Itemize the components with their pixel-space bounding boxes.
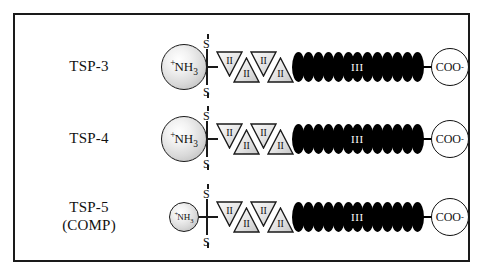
- type-ii-label: II: [255, 206, 273, 216]
- protein-name-line2: (COMP): [29, 216, 149, 234]
- sulfur-atom-upper: S: [203, 110, 210, 122]
- thrombospondin-domain-figure: TSP-3+NH3SSIIIIIIIIIIICOO-TSP-4+NH3SSIII…: [0, 0, 488, 277]
- n-terminal-subscript: 3: [193, 138, 198, 148]
- c-terminal-text: COO: [436, 60, 461, 75]
- protein-name-line1: TSP-3: [69, 58, 108, 74]
- c-terminal-domain: COO-: [431, 198, 469, 236]
- type-iii-repeat-band: III: [292, 52, 424, 82]
- type-ii-label: II: [272, 141, 290, 151]
- n-terminal-domain: +NH3: [161, 116, 207, 162]
- type-iii-repeat-band: III: [292, 124, 424, 154]
- n-terminal-text: NH: [174, 131, 193, 146]
- n-terminal-label: +NH3: [170, 130, 198, 149]
- n-terminal-text: NH: [177, 212, 190, 222]
- n-terminal-domain: +NH3: [169, 202, 199, 232]
- type-ii-label: II: [221, 206, 239, 216]
- type-iii-label: III: [351, 134, 364, 145]
- c-terminal-domain: COO-: [431, 120, 469, 158]
- n-terminal-subscript: 3: [193, 66, 198, 76]
- n-terminal-text: NH: [174, 59, 193, 74]
- c-terminal-charge: -: [461, 134, 464, 144]
- protein-name-label: TSP-5(COMP): [29, 198, 149, 234]
- type-ii-label: II: [238, 219, 256, 229]
- sulfur-bond-tick-upper: [207, 34, 209, 39]
- c-terminal-charge: -: [461, 62, 464, 72]
- type-iii-label: III: [351, 62, 364, 73]
- protein-name-label: TSP-3: [29, 57, 149, 75]
- sulfur-bond-tick-lower: [207, 93, 209, 98]
- c-terminal-charge: -: [461, 212, 464, 222]
- type-iii-repeat-band: III: [292, 202, 424, 232]
- sulfur-bond-tick-upper: [207, 184, 209, 189]
- sulfur-atom-upper: S: [203, 188, 210, 200]
- type-ii-label: II: [255, 128, 273, 138]
- type-ii-label: II: [221, 56, 239, 66]
- protein-name-line1: TSP-4: [69, 130, 108, 146]
- n-terminal-label: +NH3: [175, 210, 194, 224]
- sulfur-atom-upper: S: [203, 38, 210, 50]
- c-terminal-text: COO: [436, 132, 461, 147]
- n-terminal-domain: +NH3: [161, 44, 207, 90]
- figure-frame: TSP-3+NH3SSIIIIIIIIIIICOO-TSP-4+NH3SSIII…: [13, 13, 470, 262]
- type-ii-label: II: [272, 219, 290, 229]
- sulfur-bond-tick-lower: [207, 243, 209, 248]
- protein-name-line1: TSP-5: [69, 199, 108, 215]
- c-terminal-text: COO: [436, 210, 461, 225]
- type-ii-label: II: [238, 141, 256, 151]
- protein-name-label: TSP-4: [29, 129, 149, 147]
- type-ii-label: II: [272, 69, 290, 79]
- type-ii-label: II: [255, 56, 273, 66]
- type-iii-label: III: [351, 212, 364, 223]
- n-terminal-label: +NH3: [170, 58, 198, 77]
- type-ii-label: II: [221, 128, 239, 138]
- type-ii-label: II: [238, 69, 256, 79]
- sulfur-bond-tick-upper: [207, 106, 209, 111]
- c-terminal-domain: COO-: [431, 48, 469, 86]
- n-terminal-subscript: 3: [190, 217, 193, 224]
- sulfur-bond-tick-lower: [207, 165, 209, 170]
